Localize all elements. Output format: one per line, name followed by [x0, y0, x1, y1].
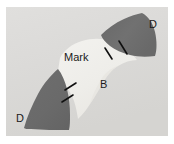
label-d-top-right: D — [149, 19, 157, 30]
label-d-bottom-left: D — [16, 113, 24, 124]
grain-overlay — [6, 7, 168, 136]
label-mark: Mark — [64, 52, 88, 63]
micrograph-vector-content — [6, 7, 168, 136]
label-b: B — [100, 79, 107, 90]
figure-root: Mark B D D — [0, 0, 174, 144]
micrograph-image — [6, 7, 168, 136]
